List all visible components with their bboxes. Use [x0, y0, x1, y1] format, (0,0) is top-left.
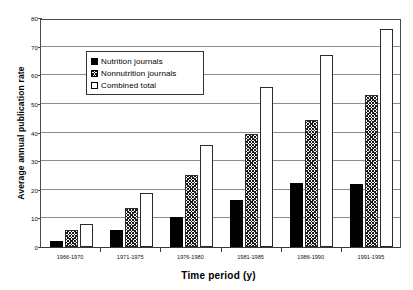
bar-combined	[320, 55, 333, 247]
y-tick-label: 80	[8, 16, 38, 22]
x-tick-label: 1986-1990	[281, 254, 341, 261]
x-tick-mark	[160, 248, 161, 252]
x-tick-mark	[341, 248, 342, 252]
bar-combined	[200, 145, 213, 247]
bar-combined	[80, 224, 93, 247]
bar-nutrition	[110, 230, 123, 247]
y-tick-label: 0	[8, 245, 38, 251]
x-tick-mark	[100, 248, 101, 252]
x-tick-mark	[221, 248, 222, 252]
bar-group	[342, 20, 402, 247]
x-axis-title: Time period (y)	[36, 270, 401, 281]
bar-nutrition	[170, 217, 183, 247]
legend-item-label: Combined total	[101, 81, 156, 90]
x-tick-label: 1971-1975	[100, 254, 160, 261]
legend-item-label: Nonnutrition journals	[101, 69, 176, 78]
bar-nonnutrition	[245, 134, 258, 247]
y-tick-label: 60	[8, 73, 38, 79]
bar-combined	[140, 193, 153, 247]
bar-nutrition	[230, 200, 243, 247]
x-axis-ticks: 1966-19701971-19751976-19801981-19851986…	[40, 248, 401, 268]
x-tick-label: 1991-1995	[341, 254, 401, 261]
legend-item: Combined total	[91, 79, 199, 91]
x-tick-label: 1976-1980	[160, 254, 220, 261]
bar-group	[282, 20, 342, 247]
bar-combined	[260, 87, 273, 247]
y-tick-label: 20	[8, 188, 38, 194]
bar-nonnutrition	[365, 95, 378, 247]
y-axis-ticks: 01020304050607080	[4, 19, 38, 248]
bar-nutrition	[290, 183, 303, 247]
bar-nutrition	[350, 184, 363, 247]
bar-combined	[380, 29, 393, 247]
y-tick-label: 30	[8, 159, 38, 165]
bar-nonnutrition	[125, 208, 138, 247]
crosshatch-square-icon	[91, 70, 98, 77]
y-tick-label: 10	[8, 216, 38, 222]
y-tick-label: 40	[8, 131, 38, 137]
y-tick-label: 50	[8, 102, 38, 108]
bar-nonnutrition	[185, 175, 198, 247]
y-tick-label: 70	[8, 45, 38, 51]
white-square-icon	[91, 82, 98, 89]
x-tick-label: 1966-1970	[40, 254, 100, 261]
x-tick-mark	[281, 248, 282, 252]
bar-nonnutrition	[65, 230, 78, 247]
bar-group	[222, 20, 282, 247]
solid-black-square-icon	[91, 58, 98, 65]
legend-item: Nonnutrition journals	[91, 67, 199, 79]
legend-item-label: Nutrition journals	[101, 57, 163, 66]
chart-legend: Nutrition journalsNonnutrition journalsC…	[86, 51, 204, 95]
publication-rate-bar-chart: Average annual publication rate 01020304…	[0, 0, 413, 290]
x-tick-label: 1981-1985	[221, 254, 281, 261]
bar-nonnutrition	[305, 120, 318, 247]
bar-nutrition	[50, 241, 63, 247]
legend-item: Nutrition journals	[91, 55, 199, 67]
